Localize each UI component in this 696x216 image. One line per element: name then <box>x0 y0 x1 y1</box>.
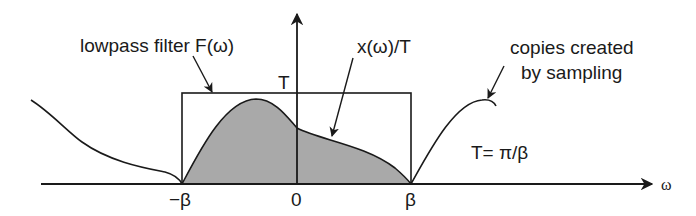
copies-label-line2: by sampling <box>521 63 622 82</box>
diagram-canvas <box>0 0 696 216</box>
tick-zero: 0 <box>291 190 302 209</box>
signal-pointer-arrow <box>332 58 353 136</box>
omega-axis-label: ω <box>661 177 672 193</box>
copies-pointer-arrow <box>488 66 504 98</box>
relation-label: T= π/β <box>471 143 528 162</box>
signal-label: x(ω)/T <box>357 37 411 56</box>
tick-beta: β <box>405 190 416 209</box>
filter-pointer-arrow <box>193 56 212 92</box>
sampling-spectrum-diagram: lowpass filter F(ω) x(ω)/T copies create… <box>0 0 696 216</box>
copies-label-line1: copies created <box>510 38 634 57</box>
left-copy-curve <box>31 100 182 184</box>
filter-height-label: T <box>278 73 290 92</box>
tick-neg-beta: −β <box>169 190 191 209</box>
filter-label: lowpass filter F(ω) <box>80 36 234 55</box>
